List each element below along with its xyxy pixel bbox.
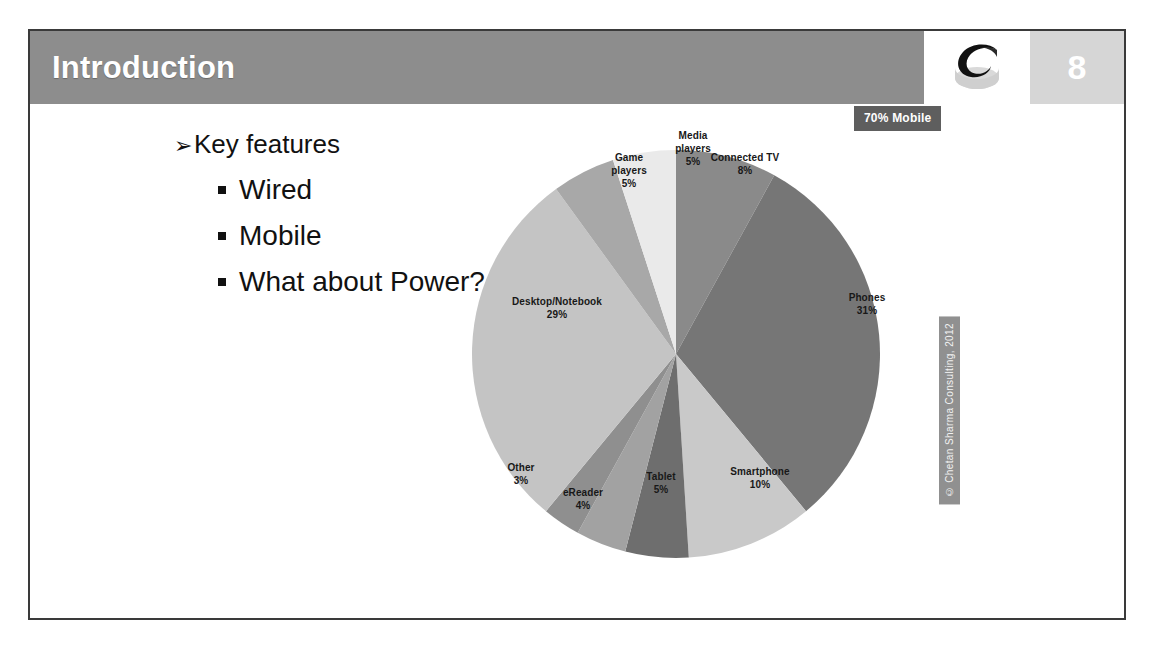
bullet-label: Mobile	[239, 219, 321, 252]
pie-label-other: Other 3%	[491, 462, 551, 488]
pie-slices	[472, 150, 880, 558]
header-title-block: Introduction	[30, 31, 924, 104]
bullet-label: What about Power?	[239, 265, 485, 298]
slide-body: ➢ Key features Wired Mobile What about P…	[30, 104, 1124, 618]
square-bullet-icon	[218, 186, 226, 194]
square-bullet-icon	[218, 232, 226, 240]
pie-label-desktop-notebook: Desktop/Notebook 29%	[486, 296, 628, 322]
pie-label-phones: Phones 31%	[828, 292, 906, 318]
page-number-block: 8	[1030, 31, 1124, 104]
arrow-bullet-icon: ➢	[174, 135, 192, 157]
page-title: Introduction	[52, 50, 235, 86]
copyright-watermark: © Chetan Sharma Consulting, 2012	[939, 316, 960, 504]
mobile-share-callout: 70% Mobile	[854, 106, 941, 131]
square-bullet-icon	[218, 278, 226, 286]
logo-block	[924, 31, 1030, 104]
pie-label-ereader: eReader 4%	[543, 487, 623, 513]
presentation-slide: Introduction 8	[28, 29, 1126, 620]
bullet-label: Key features	[194, 129, 340, 160]
page-number: 8	[1068, 48, 1087, 87]
bullet-label: Wired	[239, 173, 312, 206]
slide-header: Introduction 8	[30, 31, 1124, 104]
device-share-pie-chart: Connected TV 8% Phones 31% Smartphone 10…	[450, 104, 1128, 622]
pie-label-media-players: Media players 5%	[662, 130, 724, 168]
pie-label-game-players: Game players 5%	[598, 152, 660, 190]
chetan-sharma-ribbon-logo-icon	[945, 36, 1009, 100]
pie-label-smartphone: Smartphone 10%	[708, 466, 812, 492]
pie-graphic	[470, 148, 882, 560]
pie-label-tablet: Tablet 5%	[628, 471, 694, 497]
slide-page: Introduction 8	[0, 0, 1154, 666]
